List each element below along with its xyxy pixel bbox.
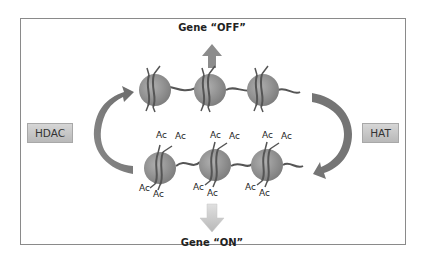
nucleosome-top-2 bbox=[194, 66, 226, 112]
acetyl-label: Ac bbox=[156, 130, 167, 140]
nucleosome-top-3 bbox=[247, 66, 279, 112]
acetyl-label: Ac bbox=[153, 189, 164, 199]
nucleosome-top-1 bbox=[139, 66, 171, 112]
acetyl-label: Ac bbox=[281, 131, 292, 141]
acetyl-label: Ac bbox=[175, 131, 186, 141]
hat-cycle-arrow-icon bbox=[312, 93, 352, 179]
nucleosome-bottom-3 bbox=[251, 142, 283, 187]
acetyl-label: Ac bbox=[193, 182, 204, 192]
acetyl-label: Ac bbox=[262, 130, 273, 140]
down-arrow-icon bbox=[200, 204, 224, 232]
hdac-label: HDAC bbox=[27, 123, 73, 143]
nucleosome-bottom-2 bbox=[199, 142, 231, 187]
gene-off-label: Gene “OFF” bbox=[178, 22, 246, 33]
acetyl-label: Ac bbox=[245, 182, 256, 192]
acetyl-label: Ac bbox=[210, 130, 221, 140]
up-arrow-icon bbox=[202, 44, 222, 68]
hdac-cycle-arrow-icon bbox=[94, 86, 134, 174]
hat-label: HAT bbox=[362, 123, 399, 143]
gene-on-label: Gene “ON” bbox=[181, 237, 243, 248]
acetyl-label: Ac bbox=[259, 188, 270, 198]
acetyl-label: Ac bbox=[139, 183, 150, 193]
bottom-chromatin-row bbox=[144, 142, 303, 190]
acetyl-label: Ac bbox=[207, 188, 218, 198]
acetyl-label: Ac bbox=[229, 131, 240, 141]
top-chromatin-row bbox=[139, 66, 300, 112]
